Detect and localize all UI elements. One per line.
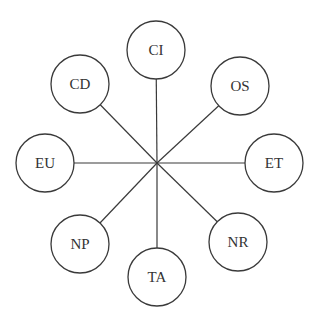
spoke-nr	[157, 163, 217, 222]
node-label: NP	[70, 236, 89, 252]
spoke-np	[100, 163, 157, 223]
node-eu: EU	[16, 134, 74, 192]
node-nr: NR	[209, 213, 267, 271]
spoke-cd	[100, 105, 157, 163]
node-cd: CD	[51, 55, 109, 113]
hub-spoke-diagram: CIOSETNRTANPEUCD	[0, 0, 321, 325]
node-et: ET	[245, 134, 303, 192]
spoke-ci	[156, 79, 157, 163]
node-label: CI	[149, 42, 164, 58]
node-os: OS	[211, 57, 269, 115]
node-label: ET	[265, 155, 283, 171]
node-label: NR	[228, 234, 249, 250]
spoke-os	[157, 106, 219, 163]
node-ta: TA	[128, 248, 186, 306]
node-np: NP	[51, 215, 109, 273]
node-label: CD	[70, 76, 91, 92]
node-label: TA	[148, 269, 167, 285]
node-label: EU	[35, 155, 55, 171]
node-ci: CI	[127, 21, 185, 79]
node-label: OS	[230, 78, 249, 94]
